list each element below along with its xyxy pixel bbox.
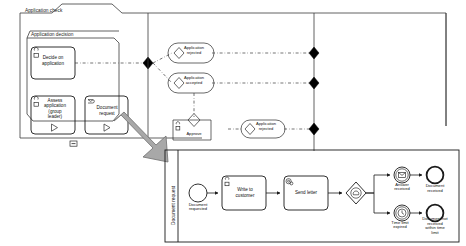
- event-application-rejected-1[interactable]: Applicationrejected: [168, 43, 214, 63]
- connector-right-2: [309, 77, 319, 89]
- message-task-icon: [88, 100, 94, 103]
- task-label: Decide onapplication: [42, 56, 64, 66]
- connector-right-1: [309, 47, 319, 59]
- envelope-icon: [399, 173, 406, 178]
- outer-pool-label: Application check: [25, 8, 63, 13]
- outer-pool-application-check: Application check: [20, 4, 446, 138]
- task-label: Approve: [186, 131, 202, 136]
- user-task-icon: [176, 122, 180, 130]
- service-task-icon: [286, 179, 293, 185]
- task-decide-on-application[interactable]: Decide onapplication: [31, 47, 75, 79]
- task-label: Assessapplication(groupleader): [44, 98, 66, 119]
- user-task-icon: [34, 96, 38, 106]
- event-document-requested[interactable]: Documentrequested: [189, 184, 209, 211]
- inner-pool-application-decision: Application decision: [27, 31, 119, 146]
- event-document-not-received[interactable]: Document notreceivedwithin timelimit: [422, 205, 448, 236]
- event-label-line1: Applicationrejected: [184, 45, 205, 55]
- subprocess-pool-document-request: Document request: [165, 150, 459, 242]
- expand-triangle-icon[interactable]: [52, 124, 58, 131]
- inner-pool-label: Application decision: [31, 32, 74, 37]
- event-document-received[interactable]: Documentreceived: [426, 167, 446, 193]
- event-label-line1: Applicationaccepted: [184, 75, 205, 85]
- task-approve[interactable]: Approve: [173, 120, 211, 140]
- connector-right-3: [309, 123, 319, 135]
- user-task-icon: [34, 47, 38, 57]
- task-label: Send letter: [295, 190, 318, 195]
- event-label: Document notreceivedwithin timelimit: [422, 216, 448, 236]
- expand-triangle-icon[interactable]: [104, 124, 110, 131]
- task-label: Write tocustomer: [236, 188, 255, 198]
- gateway-event-based[interactable]: [346, 182, 366, 204]
- task-assess-application[interactable]: Assessapplication(groupleader): [31, 96, 75, 134]
- gateway-reject-1[interactable]: [174, 48, 184, 59]
- bpmn-canvas: Application check Application decision D…: [0, 0, 466, 246]
- minus-marker-icon[interactable]: [70, 141, 77, 146]
- event-time-limit-expired[interactable]: Time limitexpired: [391, 205, 410, 229]
- subprocess-lane-label: Document request: [171, 185, 176, 225]
- event-label: Time limitexpired: [391, 220, 409, 230]
- task-label: Documentrequest: [97, 106, 119, 116]
- event-answer-received[interactable]: Answerreceived: [394, 167, 410, 191]
- event-label-line1: Applicationrejected: [256, 121, 277, 131]
- gateway-reject-2[interactable]: [245, 124, 255, 135]
- gateway-accept[interactable]: [174, 78, 184, 89]
- event-label: Documentrequested: [189, 202, 209, 212]
- clock-icon: [398, 209, 406, 217]
- task-send-letter[interactable]: Send letter: [284, 176, 328, 210]
- event-application-accepted[interactable]: Applicationaccepted: [168, 73, 214, 93]
- event-application-rejected-2[interactable]: Applicationrejected: [241, 120, 285, 138]
- event-label: Answerreceived: [394, 182, 410, 192]
- drilldown-arrow-icon: [114, 112, 168, 162]
- event-label: Documentreceived: [426, 183, 446, 193]
- task-write-to-customer[interactable]: Write tocustomer: [222, 176, 266, 210]
- user-task-icon: [225, 177, 229, 186]
- bpmn-diagram: Application check Application decision D…: [0, 0, 466, 246]
